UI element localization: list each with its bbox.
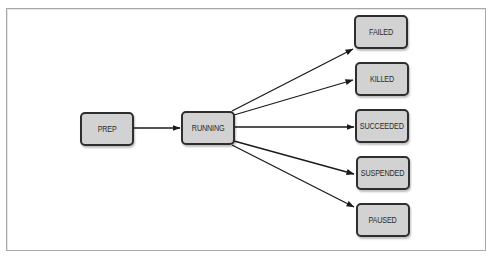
edge-running-to-suspended bbox=[234, 141, 354, 174]
node-label: SUCCEEDED bbox=[360, 121, 404, 131]
node-label: PREP bbox=[97, 124, 116, 134]
node-label: KILLED bbox=[370, 74, 394, 84]
node-running: RUNNING bbox=[181, 111, 235, 145]
node-prep: PREP bbox=[80, 112, 134, 146]
node-suspended: SUSPENDED bbox=[356, 156, 410, 190]
node-label: FAILED bbox=[369, 27, 393, 37]
node-succeeded: SUCCEEDED bbox=[355, 109, 409, 143]
edge-running-to-paused bbox=[232, 145, 354, 207]
edges-layer bbox=[0, 0, 492, 260]
node-paused: PAUSED bbox=[356, 203, 410, 237]
node-label: SUSPENDED bbox=[361, 168, 404, 178]
node-label: PAUSED bbox=[369, 215, 397, 225]
node-killed: KILLED bbox=[355, 62, 409, 96]
node-failed: FAILED bbox=[354, 15, 408, 49]
node-label: RUNNING bbox=[192, 123, 225, 133]
edge-running-to-killed bbox=[234, 80, 353, 115]
edge-running-to-failed bbox=[232, 49, 353, 111]
